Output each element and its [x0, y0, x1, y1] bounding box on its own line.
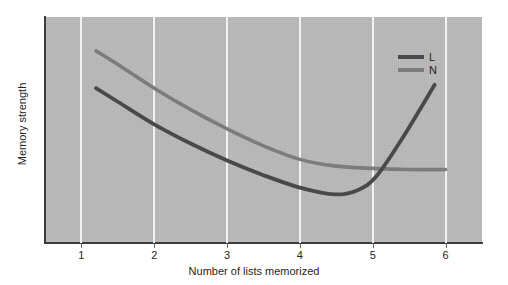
curve-layer: [0, 0, 508, 285]
legend-swatch-n: [398, 68, 424, 72]
chart-legend: L N: [398, 52, 452, 78]
legend-item-n: N: [398, 65, 452, 77]
legend-label-l: L: [429, 50, 435, 64]
legend-label-n: N: [429, 63, 437, 77]
legend-item-l: L: [398, 52, 452, 64]
legend-swatch-l: [398, 55, 424, 59]
chart-figure: 123456 L N Number of lists memorized Mem…: [0, 0, 508, 285]
y-axis-label: Memory strength: [16, 54, 28, 194]
x-axis-label: Number of lists memorized: [0, 265, 508, 277]
series-line-l: [96, 85, 435, 195]
